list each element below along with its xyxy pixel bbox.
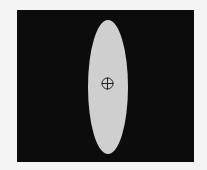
- dark-background-panel: [17, 10, 194, 162]
- crosshair-icon: [101, 77, 114, 90]
